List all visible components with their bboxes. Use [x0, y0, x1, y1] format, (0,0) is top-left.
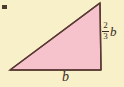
fraction-numerator: 2 — [103, 21, 109, 30]
base-length-value: b — [62, 69, 69, 84]
two-thirds-fraction: 2 3 — [102, 21, 109, 42]
height-length-label: 2 3 b — [102, 21, 117, 42]
height-variable: b — [110, 25, 117, 38]
scan-speck-artifact — [2, 5, 7, 9]
base-length-label: b — [62, 70, 69, 84]
vertical-leg-line — [100, 3, 101, 70]
figure-container: b 2 3 b — [0, 0, 124, 87]
fraction-denominator: 3 — [103, 32, 109, 41]
